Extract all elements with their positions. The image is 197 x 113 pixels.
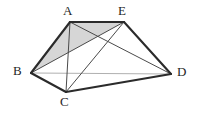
edge-C-D: [66, 74, 171, 92]
edge-B-D: [31, 73, 171, 74]
geometry-figure: AEBDC: [0, 0, 197, 113]
vertex-label-c: C: [60, 95, 69, 108]
edge-E-D: [124, 22, 171, 74]
vertex-label-b: B: [13, 64, 22, 77]
vertex-label-d: D: [177, 65, 186, 78]
edge-A-D: [70, 22, 171, 74]
vertex-label-a: A: [63, 4, 72, 17]
geometry-canvas: [0, 0, 197, 113]
edge-B-C: [31, 73, 66, 92]
hidden-edges-group: [31, 73, 171, 74]
vertex-label-e: E: [118, 4, 126, 17]
